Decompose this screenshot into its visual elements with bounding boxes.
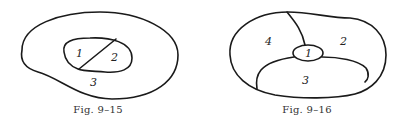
figure-9-15: 1 2 3 Fig. 9–15 xyxy=(22,12,178,115)
figure-caption: Fig. 9–15 xyxy=(73,104,123,115)
top-divider xyxy=(287,12,305,45)
region-label-3: 3 xyxy=(90,76,97,89)
inner-boundary xyxy=(64,38,132,72)
figure-9-16: 4 1 2 3 Fig. 9–16 xyxy=(230,12,386,115)
region-3-boundary-right xyxy=(322,57,368,82)
region-label-1: 1 xyxy=(76,47,83,60)
figure-caption: Fig. 9–16 xyxy=(282,104,332,115)
figure-canvas: 1 2 3 Fig. 9–15 4 1 2 3 Fig. 9–16 xyxy=(0,0,403,129)
region-label-4: 4 xyxy=(264,35,272,48)
outer-boundary xyxy=(22,12,178,99)
region-label-2: 2 xyxy=(339,35,347,48)
region-label-2: 2 xyxy=(110,51,118,64)
region-label-1: 1 xyxy=(305,47,312,60)
region-label-3: 3 xyxy=(302,74,309,87)
region-3-boundary-left xyxy=(256,57,294,89)
